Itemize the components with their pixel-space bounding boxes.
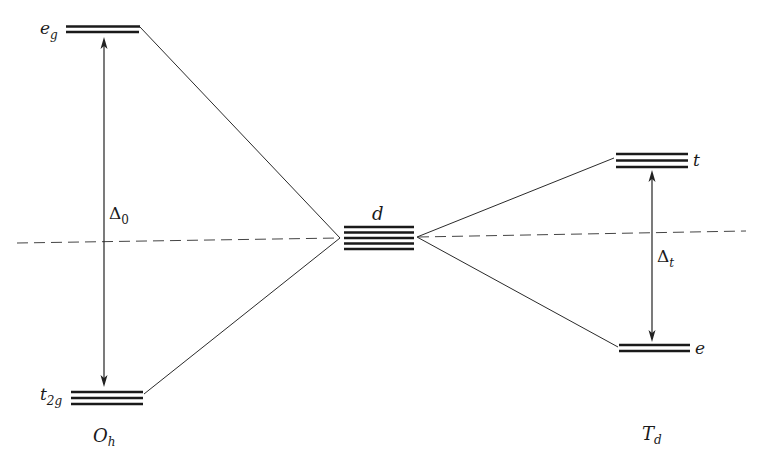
- d-level: [344, 227, 414, 249]
- eg-label: eg: [40, 18, 58, 42]
- t2g-label: t2g: [40, 384, 62, 408]
- tetrahedral-label: Td: [642, 423, 662, 447]
- t2g-level: [71, 392, 143, 404]
- t-level: [616, 154, 688, 167]
- delta-t-label: Δt: [657, 246, 674, 270]
- e-level: [619, 345, 690, 351]
- delta-t-arrow: [649, 170, 656, 342]
- crystal-field-diagram: eg t2g d t e Δ0 Δt Oh Td: [0, 0, 764, 462]
- d-label: d: [372, 203, 384, 224]
- t-label: t: [693, 150, 700, 170]
- e-label: e: [695, 338, 705, 358]
- octahedral-label: Oh: [93, 425, 116, 449]
- delta-o-label: Δ0: [109, 203, 129, 227]
- eg-level: [66, 27, 140, 33]
- delta-o-arrow: [101, 37, 108, 387]
